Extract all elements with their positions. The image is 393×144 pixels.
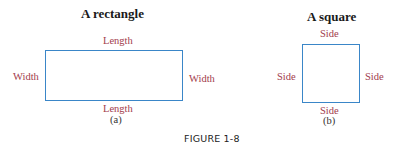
rectangle-right-label: Width [189, 73, 215, 84]
square-top-label: Side [320, 28, 339, 39]
rectangle-sub-label: (a) [110, 114, 122, 125]
rectangle-bottom-label: Length [103, 103, 133, 114]
rectangle-shape [45, 50, 183, 101]
rectangle-top-label: Length [103, 35, 133, 46]
rectangle-left-label: Width [13, 71, 39, 82]
square-sub-label: (b) [323, 115, 335, 126]
rectangle-title: A rectangle [81, 6, 144, 22]
square-shape [302, 44, 360, 103]
square-title: A square [307, 9, 356, 25]
square-right-label: Side [365, 71, 384, 82]
figure-caption: FIGURE 1-8 [184, 133, 240, 144]
square-left-label: Side [277, 71, 296, 82]
